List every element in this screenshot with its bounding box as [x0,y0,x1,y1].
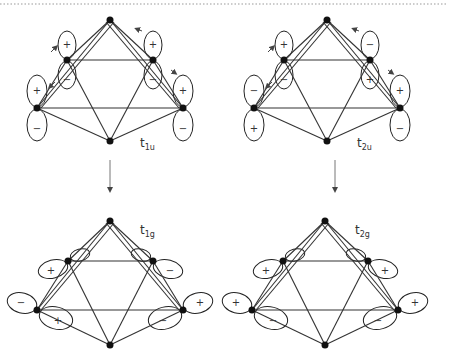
panel-t1g: + − − + + − t1g [5,218,215,349]
orbitals-t1g [5,247,215,333]
svg-text:−: − [17,297,25,308]
atom-front-right [180,105,187,112]
sign: − [33,123,41,134]
panel-t1u: + − + − + − + − t1u [27,17,193,153]
atom-top [107,17,114,24]
octahedral-orbital-diagram: + − + − + − + − t1u [0,0,456,355]
orbitals-t2g [220,247,430,333]
svg-text:−: − [396,123,404,134]
svg-text:+: + [47,265,55,276]
sign: − [179,123,187,134]
svg-text:+: + [280,39,288,50]
sign: − [63,74,71,85]
panel-t2u: + − − + − + + − t2u [244,17,410,153]
sign: + [33,85,41,96]
svg-text:−: − [374,315,382,326]
label-t1g: t1g [140,223,155,239]
sign: + [179,85,187,96]
svg-text:+: + [54,315,62,326]
panel-t2g: + + + − + − t2g [220,218,430,349]
label-t2u: t2u [357,136,372,152]
sign: + [63,39,71,50]
sign: + [149,39,157,50]
label-t2g: t2g [355,223,370,239]
svg-text:−: − [280,74,288,85]
svg-text:+: + [396,85,404,96]
svg-text:−: − [269,315,277,326]
svg-text:+: + [381,265,389,276]
svg-text:+: + [411,297,419,308]
svg-text:+: + [366,74,374,85]
atom-front-left [34,105,41,112]
svg-text:−: − [166,265,174,276]
svg-text:+: + [262,265,270,276]
svg-text:+: + [232,297,240,308]
label-t1u: t1u [140,136,155,152]
orbitals-t1u [27,31,193,141]
orbitals-t2u [244,31,410,141]
atom-bottom [107,138,114,145]
svg-text:−: − [250,85,258,96]
atom-back-left [64,57,71,64]
sign: − [149,74,157,85]
svg-text:−: − [159,315,167,326]
atoms-t2u [251,17,404,145]
svg-text:+: + [196,297,204,308]
svg-text:+: + [250,123,258,134]
atoms-t1u [34,17,187,145]
svg-text:−: − [366,39,374,50]
atom-back-right [150,57,157,64]
